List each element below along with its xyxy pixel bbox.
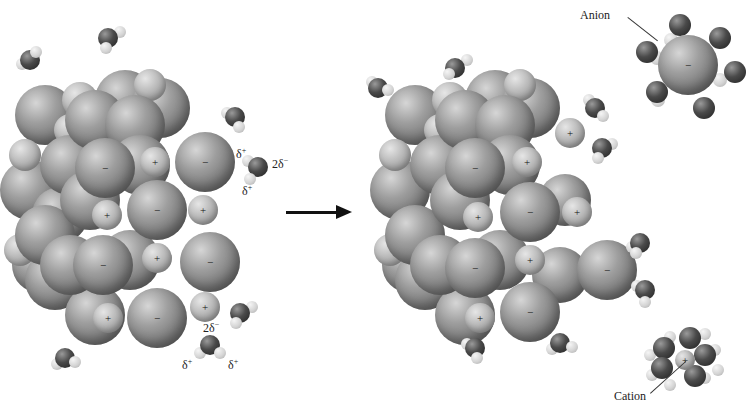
oxygen-atom	[636, 41, 658, 63]
anion-charge-sign: −	[154, 205, 160, 216]
hydrogen-atom	[471, 352, 483, 364]
anion-charge-sign: −	[100, 260, 106, 271]
arrow-head	[336, 205, 352, 219]
cation-sphere: +	[465, 303, 495, 333]
cation-sphere: +	[140, 147, 170, 177]
cation-sphere	[9, 139, 41, 171]
oxygen-atom	[694, 344, 716, 366]
cation-charge-sign: +	[152, 157, 158, 168]
anion-sphere: −	[127, 180, 187, 240]
anion-sphere: −	[500, 282, 560, 342]
cation-sphere: +	[463, 202, 493, 232]
cation-sphere: +	[188, 195, 218, 225]
cation-label: Cation	[614, 389, 646, 404]
oxygen-atom	[653, 337, 675, 359]
anion-charge-sign: −	[527, 207, 533, 218]
cation-charge-sign: +	[567, 128, 573, 139]
oxygen-atom	[669, 14, 691, 36]
anion-charge-sign: −	[102, 163, 108, 174]
oxygen-atom	[709, 27, 731, 49]
oxygen-atom	[724, 61, 746, 83]
oxygen-atom	[646, 81, 668, 103]
partial-charge-label: 2δ−	[203, 320, 219, 336]
anion-sphere: −	[445, 138, 505, 198]
cation-sphere: +	[512, 147, 542, 177]
anion-charge-sign: −	[527, 307, 533, 318]
partial-charge-label: δ+	[182, 357, 192, 373]
cation-sphere: +	[93, 303, 123, 333]
hydrogen-atom	[712, 364, 724, 376]
hydrogen-atom	[100, 42, 112, 54]
arrow-shaft	[286, 211, 338, 214]
partial-charge-label: δ+	[236, 146, 246, 162]
cation-sphere: +	[562, 197, 592, 227]
anion-sphere: −	[73, 235, 133, 295]
anion-sphere: −	[75, 138, 135, 198]
hydrogen-atom	[382, 84, 394, 96]
anion-charge-sign: −	[685, 60, 691, 71]
hydrogen-atom	[566, 341, 578, 353]
hydrogen-atom	[233, 121, 245, 133]
hydrogen-atom	[597, 110, 609, 122]
anion-charge-sign: −	[472, 163, 478, 174]
anion-sphere: −	[180, 232, 240, 292]
anion-sphere: −	[658, 35, 718, 95]
cation-sphere: +	[92, 200, 122, 230]
anion-charge-sign: −	[202, 157, 208, 168]
cation-charge-sign: +	[477, 313, 483, 324]
hydrogen-atom	[443, 68, 455, 80]
cation-charge-sign: +	[200, 205, 206, 216]
cation-charge-sign: +	[524, 157, 530, 168]
oxygen-atom	[693, 97, 715, 119]
hydrogen-atom	[639, 296, 651, 308]
anion-sphere: −	[175, 132, 235, 192]
cation-charge-sign: +	[104, 210, 110, 221]
cation-sphere: +	[515, 245, 545, 275]
hydrogen-atom	[592, 152, 604, 164]
cation-charge-sign: +	[154, 253, 160, 264]
cation-charge-sign: +	[574, 207, 580, 218]
hydrogen-atom	[630, 247, 642, 259]
hydrogen-atom	[230, 317, 242, 329]
anion-charge-sign: −	[154, 313, 160, 324]
hydrogen-atom	[214, 347, 226, 359]
cation-sphere: +	[142, 243, 172, 273]
partial-charge-label: 2δ−	[272, 156, 288, 172]
cation-sphere	[379, 139, 411, 171]
partial-charge-label: δ+	[242, 183, 252, 199]
cation-charge-sign: +	[475, 212, 481, 223]
anion-sphere: −	[500, 182, 560, 242]
anion-label: Anion	[580, 8, 610, 23]
cation-charge-sign: +	[202, 302, 208, 313]
anion-sphere: −	[127, 288, 187, 348]
hydrogen-atom	[69, 356, 81, 368]
anion-sphere: −	[445, 238, 505, 298]
hydrogen-atom	[30, 46, 42, 58]
anion-charge-sign: −	[604, 265, 610, 276]
partial-charge-label: δ+	[228, 357, 238, 373]
cation-charge-sign: +	[105, 313, 111, 324]
anion-charge-sign: −	[472, 263, 478, 274]
cation-charge-sign: +	[527, 255, 533, 266]
dissolution-diagram: −−−−−−++++++−−−−−++++++−+	[0, 0, 750, 412]
anion-charge-sign: −	[207, 257, 213, 268]
cation-sphere: +	[190, 292, 220, 322]
hydrogen-atom	[664, 379, 676, 391]
cation-sphere: +	[555, 118, 585, 148]
